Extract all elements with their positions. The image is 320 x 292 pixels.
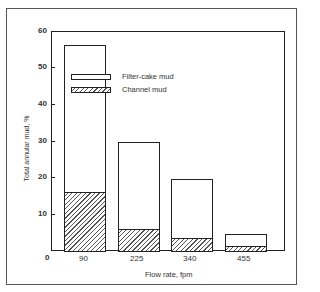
bar-90-channel [65, 192, 105, 251]
x-axis-label: Flow rate, fpm [145, 270, 193, 279]
bar-225-channel [119, 229, 159, 251]
y-tick-60: 60 [38, 26, 47, 35]
y-tick-50: 50 [38, 62, 47, 71]
bar-340-channel [172, 238, 212, 251]
y-tick-10: 10 [38, 209, 47, 218]
y-axis-label: Total annular mud, % [23, 107, 30, 191]
legend-channel-label: Channel mud [122, 85, 167, 94]
y-tick-40: 40 [38, 99, 47, 108]
x-tick-90: 90 [79, 254, 88, 263]
y-tick-0: 0 [45, 253, 49, 262]
x-tick-340: 340 [183, 254, 196, 263]
x-tick-455: 455 [237, 254, 250, 263]
plot-area: Filter-cake mud Channel mud [51, 31, 285, 251]
bar-455-channel [226, 246, 266, 251]
bar-225 [118, 142, 160, 252]
bar-455 [225, 234, 267, 252]
x-tick-225: 225 [130, 254, 143, 263]
y-tick-30: 30 [38, 136, 47, 145]
legend-filter-cake-label: Filter-cake mud [122, 72, 174, 81]
y-tick-20: 20 [38, 172, 47, 181]
legend-filter-cake-swatch [71, 74, 111, 80]
legend-channel-swatch [71, 87, 111, 93]
bar-340 [171, 179, 213, 252]
